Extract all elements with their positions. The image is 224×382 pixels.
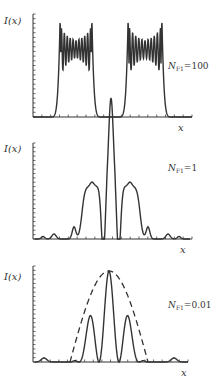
y-axis-label: I(x) [3,15,21,26]
fresnel-number-label: NF1=0.01 [167,300,211,311]
figure: I(x) x NF1=100 I(x) x NF1=1 I(x) x NF1=0… [0,0,224,382]
panel-n001: I(x) x NF1=0.01 [3,266,211,378]
x-axis-label: x [180,244,186,255]
y-axis-label: I(x) [3,143,21,154]
panel-n1: I(x) x NF1=1 [3,98,197,255]
intensity-curve [35,271,188,362]
panel-n100: I(x) x NF1=100 [3,14,209,133]
envelope-dashed-curve [70,271,148,362]
y-axis-label: I(x) [3,271,21,282]
x-axis-label: x [178,122,184,133]
fresnel-number-label: NF1=1 [167,163,197,174]
intensity-curve [35,98,190,239]
fresnel-number-label: NF1=100 [167,61,209,72]
x-axis-label: x [181,367,187,378]
